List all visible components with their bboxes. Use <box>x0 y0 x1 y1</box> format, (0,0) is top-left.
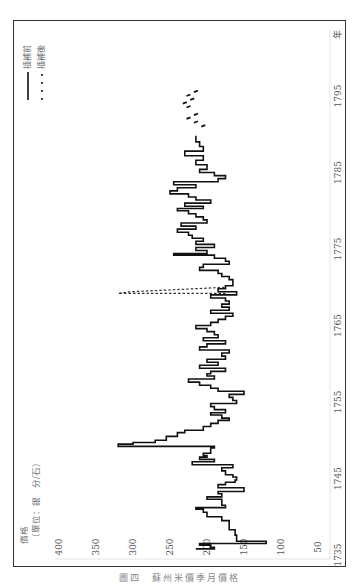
price-tick-label: 350 <box>91 538 101 555</box>
legend-label-before: 插補前 <box>22 45 32 69</box>
legend-label-after: 插補後 <box>36 45 46 69</box>
series-before-fragment <box>201 125 205 127</box>
price-tick-label: 50 <box>313 541 323 553</box>
series-before-fragment <box>187 117 191 119</box>
year-tick-label: 1775 <box>333 237 343 260</box>
price-tick-label: 300 <box>128 538 138 555</box>
price-tick-label: 100 <box>276 538 286 555</box>
series-before-fragment <box>187 95 191 97</box>
year-tick-label: 1795 <box>333 84 343 107</box>
price-axis-unit: （單位：銀 分/石） <box>31 458 41 542</box>
figure-caption: 圖四 蘇州米價季月價格 <box>0 571 359 584</box>
series-before-fragment <box>187 106 191 108</box>
series-after-dashed-line <box>118 287 225 293</box>
series-before-fragment <box>194 114 198 116</box>
series-before-fragment <box>183 102 187 104</box>
year-tick-label: 1735 <box>333 543 343 566</box>
year-unit-label: 年 <box>332 30 343 39</box>
series-before-line <box>118 136 266 549</box>
series-before-fragment <box>194 91 198 93</box>
year-tick-label: 1745 <box>333 467 343 490</box>
year-tick-label: 1755 <box>333 390 343 413</box>
series-before-fragment <box>194 121 198 123</box>
price-axis-title: 價格 <box>19 526 29 544</box>
rice-price-chart: 4003503002502001501005017351745175517651… <box>0 0 359 585</box>
year-tick-label: 1785 <box>333 161 343 184</box>
price-tick-label: 250 <box>165 538 175 555</box>
series-before-fragment <box>190 98 194 100</box>
year-tick-label: 1765 <box>333 314 343 337</box>
price-tick-label: 400 <box>54 538 64 555</box>
